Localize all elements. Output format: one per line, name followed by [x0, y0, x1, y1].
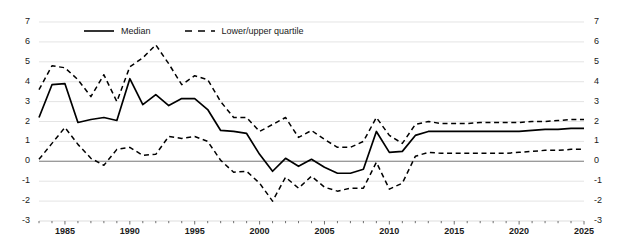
legend-key-dashed-icon — [185, 27, 215, 35]
y-tick-label-left--2: -2 — [14, 196, 30, 205]
x-tick-label-1985: 1985 — [45, 227, 85, 236]
y-tick-label-right-2: 2 — [594, 117, 610, 126]
x-axis-ticks — [39, 221, 584, 225]
y-tick-label-right--1: -1 — [594, 176, 610, 185]
y-tick-label-left-4: 4 — [14, 77, 30, 86]
x-tick-label-2015: 2015 — [434, 227, 474, 236]
x-tick-label-2005: 2005 — [304, 227, 344, 236]
x-tick-label-2000: 2000 — [240, 227, 280, 236]
y-tick-label-left-1: 1 — [14, 136, 30, 145]
x-tick-label-2025: 2025 — [564, 227, 604, 236]
y-tick-label-left--1: -1 — [14, 176, 30, 185]
legend-key-solid-icon — [84, 27, 114, 35]
chart-container: 76543210-1-2-3 76543210-1-2-3 1985199019… — [0, 0, 623, 251]
y-tick-label-right-6: 6 — [594, 37, 610, 46]
y-gridlines — [39, 22, 584, 221]
series-line-lower-quartile — [39, 127, 584, 201]
legend-label-quartile: Lower/upper quartile — [222, 26, 304, 36]
y-tick-label-right-3: 3 — [594, 97, 610, 106]
chart-legend: Median Lower/upper quartile — [84, 26, 304, 36]
chart-plot-area — [0, 0, 623, 251]
x-tick-label-2010: 2010 — [369, 227, 409, 236]
x-tick-label-1990: 1990 — [110, 227, 150, 236]
y-tick-label-right-0: 0 — [594, 156, 610, 165]
legend-label-median: Median — [121, 26, 151, 36]
y-tick-label-left-7: 7 — [14, 17, 30, 26]
legend-item-median: Median — [84, 26, 151, 36]
y-tick-label-right-4: 4 — [594, 77, 610, 86]
y-tick-label-left-5: 5 — [14, 57, 30, 66]
series-line-median — [39, 79, 584, 174]
y-tick-label-right-7: 7 — [594, 17, 610, 26]
x-tick-label-2020: 2020 — [499, 227, 539, 236]
legend-item-quartile: Lower/upper quartile — [185, 26, 304, 36]
y-tick-label-left-6: 6 — [14, 37, 30, 46]
y-tick-label-left-0: 0 — [14, 156, 30, 165]
y-tick-label-left--3: -3 — [14, 216, 30, 225]
y-tick-label-right--2: -2 — [594, 196, 610, 205]
y-tick-label-right--3: -3 — [594, 216, 610, 225]
y-tick-label-right-1: 1 — [594, 136, 610, 145]
y-tick-label-left-3: 3 — [14, 97, 30, 106]
data-series-layer — [39, 45, 584, 201]
y-tick-label-left-2: 2 — [14, 117, 30, 126]
x-tick-label-1995: 1995 — [175, 227, 215, 236]
y-tick-label-right-5: 5 — [594, 57, 610, 66]
